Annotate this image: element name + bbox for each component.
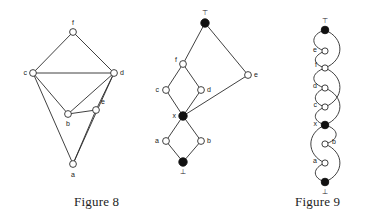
node-f2[interactable] <box>180 61 187 68</box>
node9-bottom[interactable] <box>321 178 329 186</box>
node9-b[interactable] <box>322 141 328 147</box>
node-label-b: b <box>66 120 70 127</box>
node9-label-e: e <box>313 46 317 53</box>
node-c[interactable] <box>30 70 37 77</box>
node-label-b2: b <box>207 137 211 144</box>
edge-e-x <box>183 75 248 116</box>
node9-label-f: f <box>315 61 317 68</box>
node-d[interactable] <box>111 70 118 77</box>
figure-8-lattice-labels: ⊤ e f c d x a b ⊥ <box>155 9 258 175</box>
figure-9-graph: ⊤ e f d c x b a ⊥ <box>311 17 340 195</box>
node9-d[interactable] <box>322 85 328 91</box>
edge-f-c <box>33 32 73 73</box>
edge-f-d <box>73 32 114 73</box>
node-label-f2: f <box>175 56 177 63</box>
edge-d-x <box>183 90 201 116</box>
figures-svg: f c d b e a <box>0 0 365 217</box>
node-f[interactable] <box>70 29 77 36</box>
figure-9-nodes <box>321 26 329 186</box>
node-label-a2: a <box>155 137 159 144</box>
node9-c[interactable] <box>322 104 328 110</box>
edge-f-c2 <box>166 64 183 90</box>
node9-f[interactable] <box>322 65 328 71</box>
edge-top-f <box>183 23 205 64</box>
node9-label-c: c <box>314 101 318 108</box>
caption-figure-9: Figure 9 <box>295 194 340 210</box>
edge-f-d2 <box>183 64 201 90</box>
node-label-c2: c <box>156 86 160 93</box>
node9-a[interactable] <box>322 160 328 166</box>
edge-d-b <box>68 73 114 114</box>
node-a2[interactable] <box>163 138 170 145</box>
edge-top-e <box>205 23 248 75</box>
node9-x[interactable] <box>321 121 329 129</box>
node-x[interactable] <box>179 112 187 120</box>
node9-label-d: d <box>313 82 317 89</box>
node-e2[interactable] <box>245 72 252 79</box>
figure-8-labels: f c d b e a <box>24 19 125 178</box>
node-label-c: c <box>24 69 28 76</box>
node-e[interactable] <box>93 107 100 114</box>
node-d2[interactable] <box>198 87 205 94</box>
node-label-e2: e <box>254 71 258 78</box>
node-top[interactable] <box>201 19 209 27</box>
figure-8-lattice-graph: ⊤ e f c d x a b ⊥ <box>155 9 258 175</box>
node-label-f: f <box>72 19 74 26</box>
node-b2[interactable] <box>198 138 205 145</box>
node-bottom[interactable] <box>179 158 187 166</box>
node9-e[interactable] <box>322 48 328 54</box>
node-label-top: ⊤ <box>202 9 208 16</box>
caption-figure-8: Figure 8 <box>74 194 119 210</box>
node-c2[interactable] <box>163 87 170 94</box>
figure-board: f c d b e a <box>0 0 365 217</box>
node9-label-b: b <box>332 138 336 145</box>
figure-8-graph: f c d b e a <box>24 19 125 178</box>
node-label-a: a <box>71 171 75 178</box>
node9-top[interactable] <box>321 26 329 34</box>
node-label-x: x <box>173 112 177 119</box>
edge-c-a <box>33 73 73 164</box>
node9-label-top: ⊤ <box>322 17 328 24</box>
edge-e-a <box>73 110 96 164</box>
node-label-e: e <box>101 98 105 105</box>
node9-label-a: a <box>313 157 317 164</box>
node-b[interactable] <box>65 111 72 118</box>
edge-c-b <box>33 73 68 114</box>
node-label-d: d <box>120 69 124 76</box>
node-label-d2: d <box>207 86 211 93</box>
node9-label-x: x <box>314 120 318 127</box>
node-label-bottom: ⊥ <box>180 168 186 175</box>
node-a[interactable] <box>70 161 77 168</box>
